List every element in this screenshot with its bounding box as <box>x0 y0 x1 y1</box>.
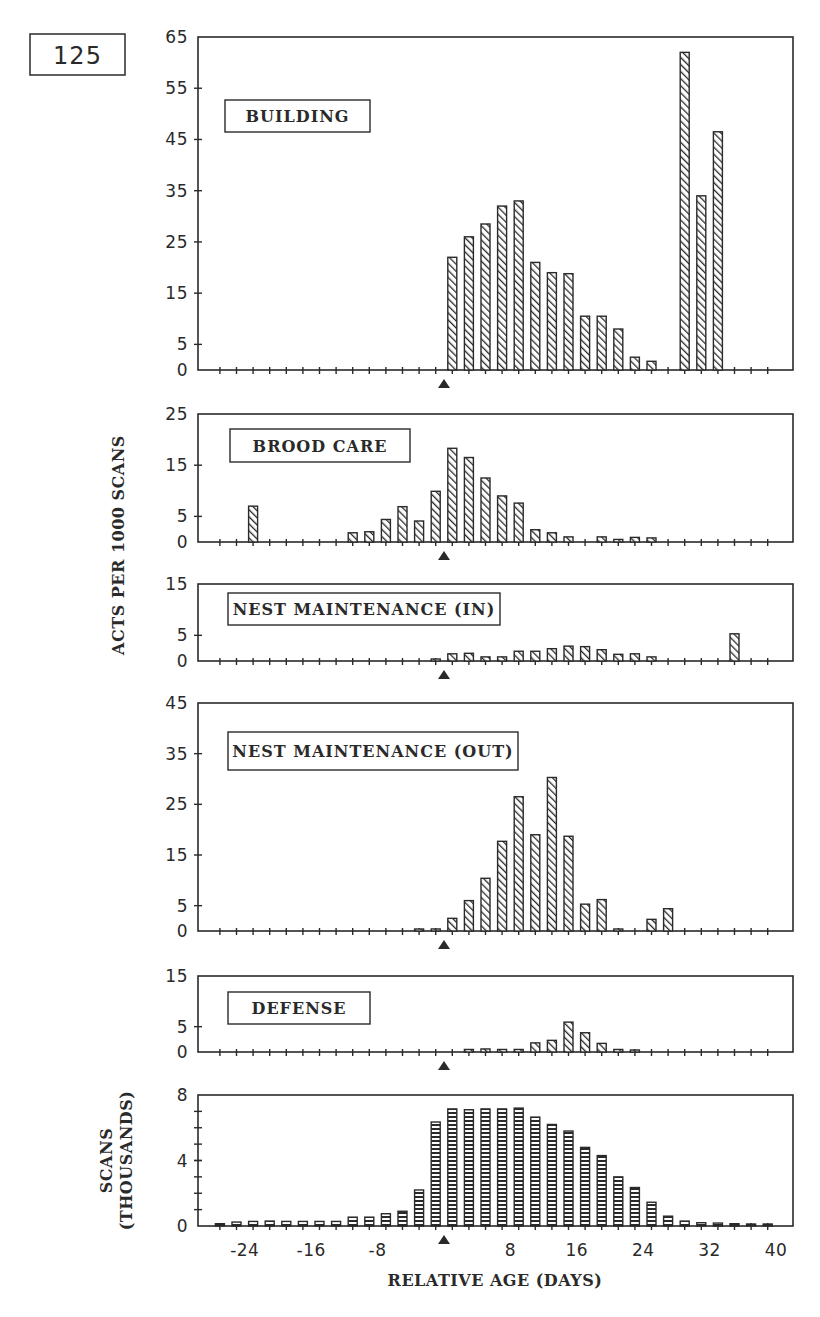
triangle-marker-icon <box>438 1061 450 1070</box>
bar <box>464 901 473 931</box>
panel-title: DEFENSE <box>252 999 347 1018</box>
triangle-marker-icon <box>438 379 450 388</box>
bar <box>630 1050 639 1052</box>
figure-number: 125 <box>30 34 125 75</box>
x-tick-label: 24 <box>632 1240 655 1260</box>
x-tick-label: -8 <box>369 1240 387 1260</box>
bar <box>464 237 473 370</box>
bar <box>514 201 523 370</box>
bar <box>431 491 440 542</box>
bar <box>381 519 390 542</box>
y-tick-label: 55 <box>165 78 188 98</box>
bar <box>249 1221 258 1226</box>
triangle-marker-icon <box>438 940 450 949</box>
triangle-marker-icon <box>438 551 450 560</box>
bar <box>564 1131 573 1226</box>
bar <box>348 1217 357 1226</box>
bar <box>498 1109 507 1226</box>
bar <box>747 1224 756 1226</box>
bar <box>232 1222 241 1226</box>
figure-125: 125 ACTS PER 1000 SCANS 05152535455565BU… <box>0 0 820 1317</box>
bar <box>531 262 540 370</box>
bar <box>398 1211 407 1226</box>
bar <box>614 654 623 661</box>
bar <box>581 316 590 370</box>
bar <box>249 506 258 542</box>
bar <box>464 653 473 661</box>
bar <box>680 1221 689 1226</box>
y-tick-label: 5 <box>177 625 188 645</box>
bar <box>564 1022 573 1052</box>
panel-defense: 0515DEFENSE <box>165 966 793 1070</box>
chart-canvas: 125 ACTS PER 1000 SCANS 05152535455565BU… <box>0 0 820 1317</box>
bar <box>498 206 507 370</box>
y-tick-label: 5 <box>177 1017 188 1037</box>
bar <box>481 224 490 370</box>
bar <box>514 651 523 661</box>
panel-title: BROOD CARE <box>253 437 388 456</box>
y-tick-label: 65 <box>165 27 188 47</box>
bar <box>647 1202 656 1226</box>
y-tick-label: 4 <box>177 1151 188 1171</box>
figure-number-text: 125 <box>53 42 102 70</box>
panel-nest-maintenance-out: 0515253545NEST MAINTENANCE (OUT) <box>165 693 793 949</box>
bar <box>431 1122 440 1226</box>
y-axis-title: SCANS <box>97 1128 116 1193</box>
bar <box>448 654 457 661</box>
x-tick-label: -16 <box>297 1240 326 1260</box>
y-tick-label: 0 <box>177 651 188 671</box>
y-tick-label: 8 <box>177 1085 188 1105</box>
bar <box>415 1190 424 1226</box>
bar <box>531 1043 540 1052</box>
bar <box>415 929 424 931</box>
x-tick-label: 8 <box>505 1240 516 1260</box>
bar <box>680 52 689 370</box>
bar <box>630 357 639 370</box>
y-tick-label: 25 <box>165 232 188 252</box>
bar <box>332 1221 341 1226</box>
y-tick-label: 0 <box>177 1042 188 1062</box>
bar <box>630 654 639 661</box>
y-tick-label: 0 <box>177 1216 188 1236</box>
bar <box>464 458 473 542</box>
bar <box>531 651 540 661</box>
bar <box>547 273 556 370</box>
x-tick-label: 32 <box>698 1240 721 1260</box>
bar <box>481 1109 490 1226</box>
bar <box>415 521 424 542</box>
panel-title: NEST MAINTENANCE (OUT) <box>232 742 513 761</box>
bar <box>282 1221 291 1226</box>
bar <box>531 530 540 542</box>
y-tick-label: 0 <box>177 532 188 552</box>
bar <box>730 1224 739 1226</box>
bar <box>448 1109 457 1226</box>
bar <box>498 496 507 542</box>
y-tick-label: 45 <box>165 129 188 149</box>
bar <box>547 533 556 542</box>
bar <box>531 1117 540 1226</box>
bar <box>614 1049 623 1052</box>
bar <box>547 1124 556 1226</box>
bar <box>597 1156 606 1226</box>
bar <box>697 1223 706 1226</box>
y-tick-label: 15 <box>165 966 188 986</box>
bar <box>498 657 507 661</box>
panel-title: BUILDING <box>246 107 350 126</box>
bar <box>697 196 706 370</box>
bar <box>564 537 573 542</box>
bar <box>448 257 457 370</box>
bar <box>630 537 639 542</box>
bar <box>564 836 573 931</box>
bar <box>514 503 523 542</box>
bar <box>348 533 357 542</box>
y-tick-label: 5 <box>177 896 188 916</box>
bar <box>315 1221 324 1226</box>
bar <box>547 1040 556 1052</box>
bar <box>498 841 507 931</box>
panel-title: NEST MAINTENANCE (IN) <box>233 600 496 619</box>
bar <box>265 1221 274 1226</box>
y-tick-label: 15 <box>165 574 188 594</box>
y-axis-title-line2: (THOUSANDS) <box>117 1091 136 1231</box>
bar <box>365 1217 374 1226</box>
bar <box>547 777 556 931</box>
